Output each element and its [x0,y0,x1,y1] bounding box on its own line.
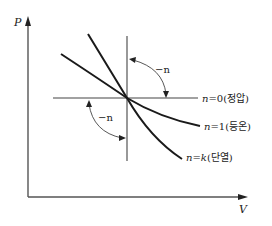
label-nk-adiabatic: n=k(단열) [186,152,233,163]
axes: P V [13,16,248,216]
lower-arc-start-arrow-icon [86,100,92,107]
v-axis-arrow-icon [238,194,248,200]
curve-nk-adiabatic [88,34,182,159]
label-n0-constant-pressure: n=0(정압) [202,92,249,104]
curve-labels: n=0(정압) n=1(등온) n=k(단열) [186,92,251,163]
process-curves [61,34,200,159]
v-axis-label: V [239,203,248,216]
upper-arc-end-arrow-icon [163,91,169,98]
upper-arc-start-arrow-icon [129,57,136,63]
label-n1-isothermal: n=1(등온) [204,121,251,132]
p-axis-arrow-icon [25,16,31,26]
p-axis-label: P [13,16,22,29]
reference-lines [53,36,198,161]
lower-arc-end-arrow-icon [119,135,126,141]
upper-angle-label: −n [155,64,170,75]
curve-n1-isothermal [61,54,200,126]
lower-angle-label: −n [98,112,113,123]
pv-diagram: P V −n −n n=0(정압) n=1(등온) n=k(단열) [0,0,272,226]
